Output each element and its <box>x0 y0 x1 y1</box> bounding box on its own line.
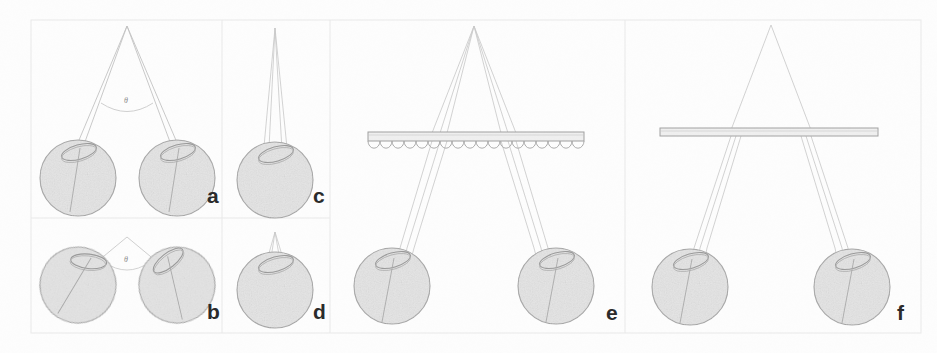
panel-c-eye <box>237 142 313 218</box>
lenslet-arc <box>476 141 488 148</box>
panel-d-eye <box>237 252 313 328</box>
panel-a-rays <box>74 26 181 152</box>
panel-a-eye-right <box>139 140 215 216</box>
panel-f-eye-right <box>814 249 890 325</box>
panel-label-f: f <box>897 302 904 323</box>
figure-drawing <box>0 0 937 353</box>
lenslet-arc <box>560 141 572 148</box>
panel-a-eye-left <box>40 140 116 216</box>
panel-label-b: b <box>207 301 220 322</box>
panel-c-content <box>237 28 313 218</box>
panel-label-a: a <box>207 185 219 206</box>
lenslet-arc <box>404 141 416 148</box>
lenslet-arc <box>368 141 380 148</box>
lenslet-arc <box>536 141 548 148</box>
panel-f-flat-slab <box>660 128 878 136</box>
panel-label-e: e <box>606 302 618 323</box>
lenslet-arc <box>380 141 392 148</box>
panel-b-angle-label: θ <box>124 256 128 264</box>
panel-b-content <box>29 236 227 335</box>
panel-a-content <box>40 26 215 216</box>
lenslet-arc <box>452 141 464 148</box>
panel-a-angle-label: θ <box>124 97 128 105</box>
panel-d-content <box>237 232 313 328</box>
panel-b-eye-left <box>29 236 128 335</box>
lenslet-arc <box>548 141 560 148</box>
lenslet-arc <box>524 141 536 148</box>
panel-f-content <box>652 25 890 325</box>
panel-label-c: c <box>313 185 325 206</box>
panel-e-content <box>354 26 594 324</box>
lenslet-arc <box>416 141 428 148</box>
lenslet-arc <box>572 141 584 148</box>
panel-e-eye-right <box>518 248 594 324</box>
panel-f-eye-left <box>652 249 728 325</box>
lenslet-arc <box>392 141 404 148</box>
figure-panel-grid: a b c d e f θ θ <box>0 0 937 353</box>
panel-e-lenticular-array <box>368 132 584 148</box>
panel-e-eye-left <box>354 248 430 324</box>
lenslet-arc <box>488 141 500 148</box>
lenslet-arc <box>464 141 476 148</box>
panel-label-d: d <box>313 301 326 322</box>
